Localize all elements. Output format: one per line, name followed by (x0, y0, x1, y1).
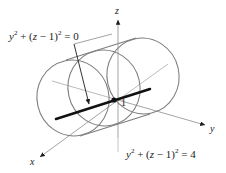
cylinder-ruling-bottom (80, 114, 150, 136)
axis-label-y: y (210, 124, 214, 134)
x-axis-negative-stub (118, 64, 168, 100)
label-degenerate-equation: y2 + (z − 1)2 = 0 (9, 30, 79, 42)
label-cylinder-equation: y2 + (z − 1)2 = 4 (126, 148, 196, 160)
cylinder-rim-front (29, 53, 116, 143)
figure-cylinder-diagram: y2 + (z − 1)2 = 0 y2 + (z − 1)2 = 4 z y … (0, 0, 226, 173)
label-degenerate-mid: + (z − 1) (17, 30, 58, 42)
cylinder-axis-line (56, 89, 150, 119)
leader-arrow-degenerate (74, 34, 112, 104)
axis-label-x: x (30, 157, 34, 167)
axis-point-marker (111, 97, 116, 102)
axis-label-z: z (115, 6, 119, 16)
point-label-one: 1 (121, 98, 126, 108)
cylinder-surface (29, 31, 186, 143)
label-cylinder-tail: = 4 (178, 148, 195, 160)
label-degenerate-tail: = 0 (61, 30, 78, 42)
label-cylinder-mid: + (z − 1) (134, 148, 175, 160)
y-axis (118, 100, 205, 125)
